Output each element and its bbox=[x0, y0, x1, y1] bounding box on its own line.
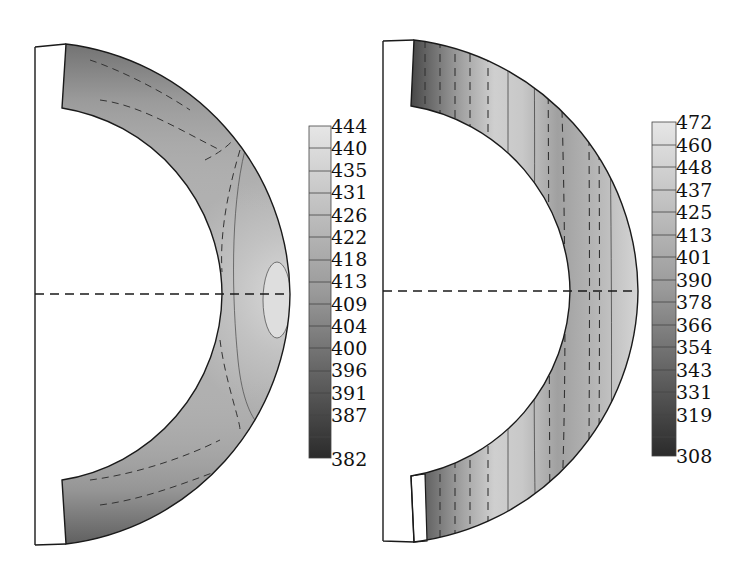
right-colorbar-label: 401 bbox=[676, 246, 712, 268]
left-colorbar-label: 426 bbox=[331, 204, 367, 226]
right-colorbar-label: 460 bbox=[676, 134, 712, 156]
left-colorbar: 444 440 435 431 426 422 418 413 409 404 … bbox=[309, 115, 367, 470]
right-colorbar-label: 308 bbox=[676, 445, 712, 467]
left-colorbar-label: 431 bbox=[331, 181, 367, 203]
left-colorbar-label: 444 bbox=[331, 115, 367, 137]
left-colorbar-label: 400 bbox=[331, 337, 367, 359]
right-colorbar-label: 437 bbox=[676, 179, 712, 201]
left-colorbar-label: 413 bbox=[331, 270, 367, 292]
right-colorbar-label: 472 bbox=[676, 111, 712, 133]
right-colorbar-label: 413 bbox=[676, 224, 712, 246]
left-colorbar-label: 435 bbox=[331, 159, 367, 181]
left-colorbar-label: 382 bbox=[331, 448, 367, 470]
left-colorbar-label: 404 bbox=[331, 315, 367, 337]
right-colorbar-label: 343 bbox=[676, 359, 712, 381]
right-colorbar-label: 448 bbox=[676, 156, 712, 178]
left-colorbar-label: 409 bbox=[331, 293, 367, 315]
left-colorbar-label: 387 bbox=[331, 404, 367, 426]
right-colorbar-label: 366 bbox=[676, 314, 712, 336]
right-colorbar-label: 331 bbox=[676, 381, 712, 403]
left-colorbar-label: 391 bbox=[331, 382, 367, 404]
right-colorbar-label: 319 bbox=[676, 404, 712, 426]
figure-canvas: 444 440 435 431 426 422 418 413 409 404 … bbox=[0, 0, 744, 570]
left-panel bbox=[30, 30, 310, 560]
left-colorbar-label: 396 bbox=[331, 359, 367, 381]
left-colorbar-label: 440 bbox=[331, 137, 367, 159]
right-colorbar-label: 378 bbox=[676, 291, 712, 313]
right-colorbar: 472 460 448 437 425 413 401 390 378 366 … bbox=[652, 111, 712, 467]
right-colorbar-label: 354 bbox=[676, 336, 712, 358]
left-colorbar-label: 422 bbox=[331, 226, 367, 248]
right-panel bbox=[380, 30, 650, 560]
right-colorbar-label: 390 bbox=[676, 269, 712, 291]
left-colorbar-label: 418 bbox=[331, 248, 367, 270]
right-colorbar-label: 425 bbox=[676, 201, 712, 223]
